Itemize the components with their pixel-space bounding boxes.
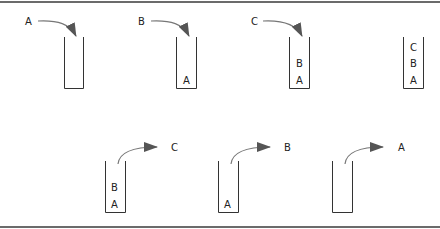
stack-item: B xyxy=(111,182,118,193)
stack-item: A xyxy=(410,75,417,86)
stack-item: A xyxy=(224,199,231,210)
push-step-4: A B C xyxy=(404,37,424,89)
stack-container xyxy=(333,161,353,213)
outgoing-label: B xyxy=(284,142,291,153)
stack-item: C xyxy=(410,42,417,53)
stack-item: A xyxy=(111,199,118,210)
push-arrow-icon xyxy=(263,21,302,36)
incoming-label: C xyxy=(251,16,258,27)
pop-arrow-icon xyxy=(231,147,270,164)
stack-item: B xyxy=(410,58,417,69)
stack-push-pop-diagram: A B A C A B A B C C A B B A xyxy=(0,0,440,229)
outgoing-label: C xyxy=(171,142,178,153)
incoming-label: B xyxy=(138,16,145,27)
stack-container xyxy=(65,37,84,89)
stack-item: B xyxy=(296,58,303,69)
stack-item: A xyxy=(183,75,190,86)
push-arrow-icon xyxy=(38,21,76,36)
stack-item: A xyxy=(296,75,303,86)
push-step-3: C A B xyxy=(251,16,310,89)
push-step-2: B A xyxy=(138,16,197,89)
push-step-1: A xyxy=(25,16,84,89)
outgoing-label: A xyxy=(398,142,405,153)
pop-arrow-icon xyxy=(118,147,157,164)
pop-step-1: C A B xyxy=(106,142,179,213)
pop-step-3: A xyxy=(333,142,406,213)
pop-step-2: B A xyxy=(219,142,292,213)
push-arrow-icon xyxy=(151,21,189,36)
pop-arrow-icon xyxy=(345,147,383,164)
incoming-label: A xyxy=(25,16,32,27)
